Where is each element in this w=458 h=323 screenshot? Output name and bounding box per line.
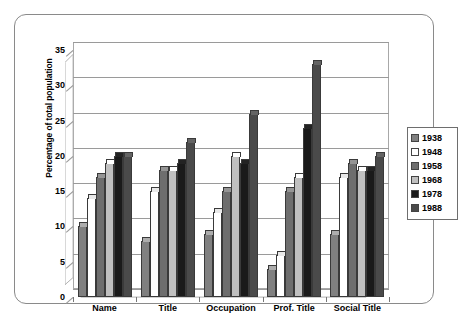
bar[interactable] xyxy=(213,212,222,297)
legend-item[interactable]: 1968 xyxy=(411,173,454,187)
y-tick-label: 0 xyxy=(41,293,65,302)
bar-group xyxy=(141,42,201,297)
bar-top-face xyxy=(187,138,196,143)
plot-area xyxy=(73,42,397,297)
legend-item-label: 1988 xyxy=(422,204,442,213)
legend-swatch-icon xyxy=(411,176,419,184)
bar[interactable] xyxy=(141,241,150,297)
x-axis-tick xyxy=(326,297,327,302)
bar[interactable] xyxy=(357,170,366,297)
bar[interactable] xyxy=(339,177,348,297)
bar[interactable] xyxy=(204,234,213,298)
bar[interactable] xyxy=(87,198,96,297)
y-axis-tick-labels: 05101520253035 xyxy=(39,15,65,298)
bar-top-face xyxy=(250,110,259,115)
bar[interactable] xyxy=(231,156,240,297)
bar-top-face xyxy=(349,159,358,164)
x-axis-tick xyxy=(73,297,74,302)
x-tick-label: Occupation xyxy=(199,303,262,313)
y-tick-label: 10 xyxy=(41,222,65,231)
bar-top-face xyxy=(232,152,241,157)
bar[interactable] xyxy=(276,255,285,297)
y-tick-label: 30 xyxy=(41,81,65,90)
bar[interactable] xyxy=(105,163,114,297)
x-tick-label: Social Title xyxy=(326,303,389,313)
legend-swatch-icon xyxy=(411,190,419,198)
x-tick-label: Prof. Title xyxy=(263,303,326,313)
bar-group xyxy=(204,42,264,297)
plot-left-wall xyxy=(65,42,74,297)
chart-legend: 193819481958196819781988 xyxy=(407,127,458,220)
legend-swatch-icon xyxy=(411,162,419,170)
bar[interactable] xyxy=(294,177,303,297)
legend-item[interactable]: 1988 xyxy=(411,201,454,215)
bar[interactable] xyxy=(114,156,123,297)
bar[interactable] xyxy=(168,170,177,297)
legend-swatch-icon xyxy=(411,134,419,142)
y-tick-label: 35 xyxy=(41,46,65,55)
x-tick-label: Title xyxy=(136,303,199,313)
y-tick-label: 20 xyxy=(41,152,65,161)
bar-top-face xyxy=(376,152,385,157)
bar[interactable] xyxy=(159,170,168,297)
x-axis-tick xyxy=(263,297,264,302)
bar[interactable] xyxy=(240,163,249,297)
bar-group xyxy=(330,42,390,297)
bar[interactable] xyxy=(123,156,132,297)
legend-item-label: 1938 xyxy=(422,134,442,143)
legend-item[interactable]: 1948 xyxy=(411,145,454,159)
bar[interactable] xyxy=(303,128,312,297)
bar-group xyxy=(78,42,138,297)
bar[interactable] xyxy=(186,142,195,297)
x-axis-tick xyxy=(389,297,390,302)
bar[interactable] xyxy=(348,163,357,297)
bar[interactable] xyxy=(177,163,186,297)
bar[interactable] xyxy=(330,234,339,298)
y-tick-label: 25 xyxy=(41,117,65,126)
bar[interactable] xyxy=(222,191,231,297)
bar-group xyxy=(267,42,327,297)
legend-item-label: 1978 xyxy=(422,190,442,199)
legend-swatch-icon xyxy=(411,148,419,156)
legend-item-label: 1958 xyxy=(422,162,442,171)
x-axis-tick xyxy=(199,297,200,302)
bar[interactable] xyxy=(78,226,87,297)
x-axis-tick-labels: NameTitleOccupationProf. TitleSocial Tit… xyxy=(73,303,403,317)
legend-item-label: 1948 xyxy=(422,148,442,157)
legend-item-label: 1968 xyxy=(422,176,442,185)
bar-top-face xyxy=(313,60,322,65)
x-tick-label: Name xyxy=(73,303,136,313)
chart-frame: Percentage of total population 051015202… xyxy=(14,14,434,304)
bar[interactable] xyxy=(249,114,258,297)
y-tick-label: 15 xyxy=(41,187,65,196)
bar[interactable] xyxy=(366,170,375,297)
x-axis-tick xyxy=(136,297,137,302)
bar[interactable] xyxy=(285,191,294,297)
bar[interactable] xyxy=(312,64,321,297)
bar[interactable] xyxy=(375,156,384,297)
bar[interactable] xyxy=(150,191,159,297)
bar-top-face xyxy=(124,152,133,157)
y-tick-label: 5 xyxy=(41,258,65,267)
legend-item[interactable]: 1938 xyxy=(411,131,454,145)
bar[interactable] xyxy=(96,177,105,297)
bar[interactable] xyxy=(267,269,276,297)
legend-item[interactable]: 1978 xyxy=(411,187,454,201)
legend-item[interactable]: 1958 xyxy=(411,159,454,173)
legend-swatch-icon xyxy=(411,204,419,212)
